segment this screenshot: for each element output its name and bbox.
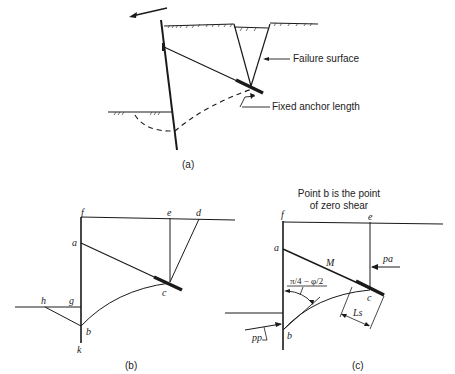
angle-label: π/4 − φ/2 — [290, 276, 323, 286]
panel-a: Failure surface Fixed anchor length (a) — [108, 8, 360, 170]
note-line-1: Point b is the point — [298, 188, 380, 199]
ground-line-c — [283, 222, 443, 224]
panel-b: f e d a c h g b k (b) — [15, 207, 235, 371]
point-k: k — [77, 344, 82, 355]
point-a-c: a — [274, 242, 279, 253]
point-h: h — [41, 295, 46, 306]
anchor-length-label: Ls — [352, 307, 363, 318]
note-line-2: of zero shear — [310, 200, 369, 211]
caption-b: (b) — [125, 360, 137, 371]
ground-line-b — [81, 217, 235, 220]
failure-surface-label: Failure surface — [293, 53, 360, 64]
point-b: b — [86, 326, 91, 337]
curve-b-c — [81, 283, 170, 326]
passive-force-label: pp — [251, 332, 262, 343]
moment-label: M — [325, 257, 335, 268]
line-d-c — [170, 219, 199, 282]
point-b-c: b — [287, 330, 292, 341]
point-c: c — [162, 287, 167, 298]
failure-wedge-left — [234, 24, 251, 86]
failure-surface-line — [251, 24, 270, 86]
caption-c: (c) — [352, 360, 364, 371]
rotation-arrow-icon — [129, 8, 167, 18]
point-c-c: c — [367, 292, 372, 303]
point-e: e — [167, 207, 172, 218]
anchored-wall-diagram: Failure surface Fixed anchor length (a) … — [0, 0, 455, 374]
panel-c: Point b is the point of zero shear π/4 −… — [225, 188, 443, 371]
point-f-c: f — [281, 209, 285, 220]
point-f: f — [81, 207, 85, 218]
fixed-anchor-length-label: Fixed anchor length — [272, 101, 360, 112]
active-force-label: pa — [382, 253, 393, 264]
point-a: a — [72, 237, 77, 248]
point-d: d — [196, 207, 202, 218]
caption-a: (a) — [182, 159, 194, 170]
point-e-c: e — [368, 211, 373, 222]
slip-surface-dashed — [135, 88, 255, 131]
point-g: g — [69, 295, 74, 306]
